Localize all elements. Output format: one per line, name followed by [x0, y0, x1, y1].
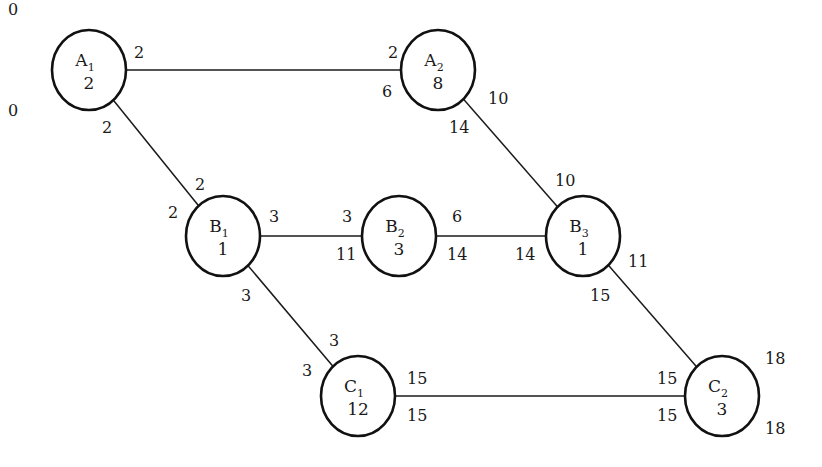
time-label: 11 — [336, 245, 356, 264]
time-label: 3 — [269, 207, 279, 226]
time-label: 3 — [342, 207, 352, 226]
time-label: 14 — [449, 118, 469, 137]
time-label: 2 — [195, 175, 205, 194]
time-label: 0 — [8, 101, 18, 120]
node-duration: 1 — [218, 239, 229, 259]
time-label: 14 — [515, 245, 535, 264]
time-label: 3 — [241, 286, 251, 305]
node-duration: 3 — [394, 239, 405, 259]
time-label: 0 — [8, 0, 18, 19]
node-duration: 3 — [717, 399, 728, 419]
node-duration: 1 — [578, 239, 589, 259]
time-label: 15 — [657, 406, 677, 425]
time-label: 15 — [407, 369, 427, 388]
node-c1: C112 — [321, 356, 395, 436]
node-layer: A12A28B11B23B31C112C23 — [52, 30, 759, 436]
node-c2: C23 — [685, 356, 759, 436]
time-label: 14 — [447, 245, 467, 264]
network-diagram: A12A28B11B23B31C112C23 00222610142233311… — [0, 0, 822, 467]
node-b1: B11 — [186, 196, 260, 276]
node-duration: 2 — [84, 73, 95, 93]
node-duration: 8 — [433, 73, 444, 93]
time-label: 2 — [388, 43, 398, 62]
node-duration: 12 — [347, 399, 369, 419]
time-label: 15 — [407, 406, 427, 425]
node-a2: A28 — [401, 30, 475, 110]
time-label: 2 — [102, 118, 112, 137]
time-label: 10 — [488, 89, 508, 108]
node-b3: B31 — [546, 196, 620, 276]
node-a1: A12 — [52, 30, 126, 110]
time-label: 18 — [765, 419, 785, 438]
time-label: 11 — [628, 252, 648, 271]
time-label: 18 — [765, 349, 785, 368]
time-label: 10 — [555, 171, 575, 190]
node-b2: B23 — [362, 196, 436, 276]
time-label: 3 — [302, 361, 312, 380]
time-label: 6 — [382, 82, 392, 101]
time-label: 15 — [657, 369, 677, 388]
time-label: 2 — [134, 43, 144, 62]
time-label: 2 — [168, 203, 178, 222]
time-label: 15 — [590, 286, 610, 305]
time-label: 3 — [329, 331, 339, 350]
time-label: 6 — [452, 207, 462, 226]
